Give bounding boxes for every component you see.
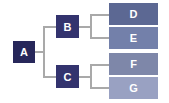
connector-c-vertical [90, 64, 92, 89]
connector-to-c [43, 76, 56, 78]
node-g: G [109, 77, 158, 99]
node-f: F [109, 53, 158, 75]
connector-to-f [90, 64, 109, 66]
node-b: B [56, 15, 79, 38]
connector-to-g [90, 87, 109, 89]
node-c: C [56, 65, 79, 88]
connector-to-b [43, 26, 56, 28]
node-e: E [109, 27, 158, 49]
node-a: A [13, 41, 35, 63]
connector-b-vertical [90, 14, 92, 39]
connector-to-d [90, 14, 109, 16]
node-d: D [109, 3, 158, 25]
connector-a-vertical [43, 26, 45, 78]
connector-to-e [90, 37, 109, 39]
